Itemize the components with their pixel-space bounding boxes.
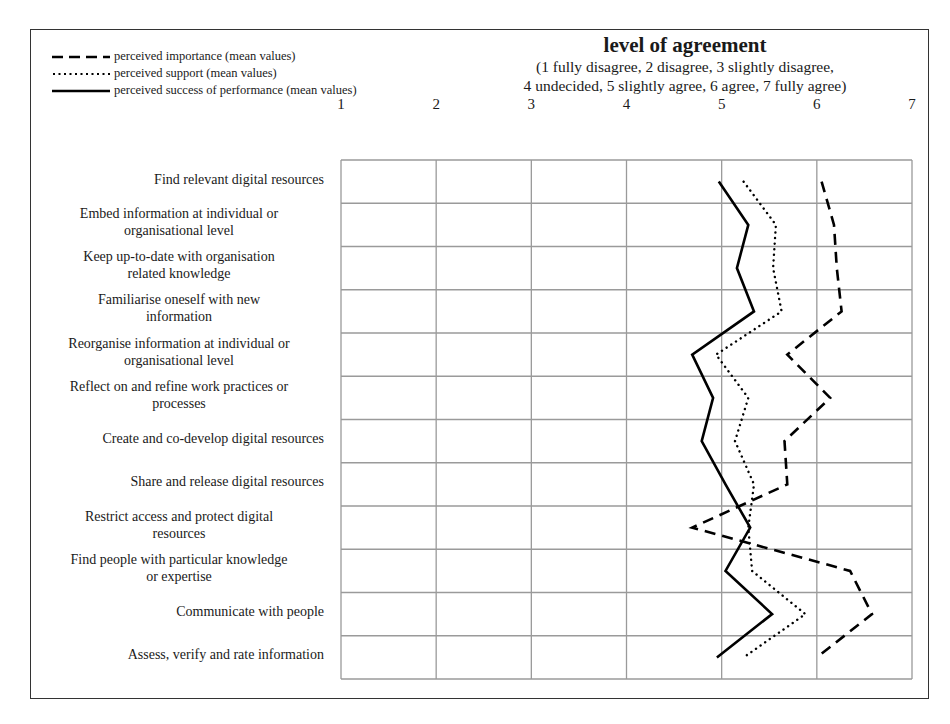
plot-area xyxy=(0,0,950,724)
